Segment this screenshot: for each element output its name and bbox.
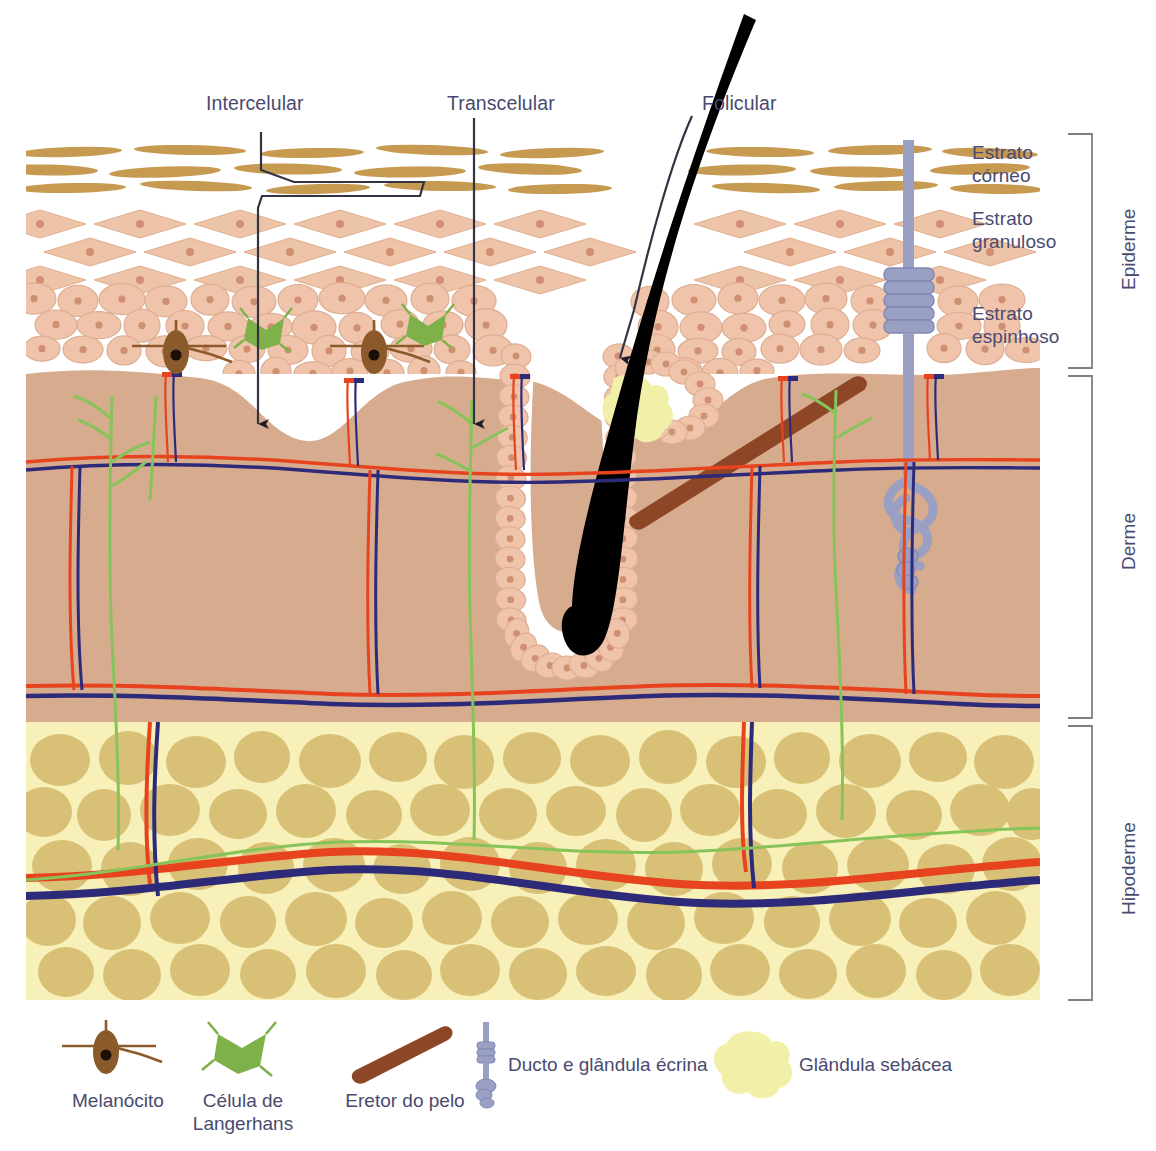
bracket-hipoderme: [1068, 726, 1092, 1000]
legend-label-arrector-pili: Eretor do pelo: [325, 1089, 485, 1112]
melanocyte-icon: [62, 1020, 162, 1074]
bracket-epiderme: [1068, 134, 1092, 368]
arrector-pili-icon: [352, 1026, 453, 1083]
sublayer-label-stratum-spinosum: Estrato espinhoso: [972, 302, 1060, 348]
legend-label-langerhans: Célula de Langerhans: [168, 1089, 318, 1135]
stratum-corneum-cells: [0, 143, 1042, 196]
bracket-label-hipoderme: Hipoderme: [1118, 822, 1140, 915]
route-label-follicular: Folicular: [702, 92, 777, 115]
stratum-granulosum-cells: [0, 210, 1036, 294]
legend-label-eccrine: Ducto e glândula écrina: [508, 1053, 788, 1076]
legend-label-sebaceous: Glândula sebácea: [799, 1053, 1079, 1076]
route-label-intercellular: Intercelular: [206, 92, 304, 115]
skin-anatomy-diagram: Intercelular Transcelular Folicular Estr…: [0, 0, 1156, 1151]
bracket-label-epiderme: Epiderme: [1118, 209, 1140, 290]
route-label-transcellular: Transcelular: [447, 92, 555, 115]
sublayer-label-stratum-granulosum: Estrato granuloso: [972, 207, 1056, 253]
sublayer-label-stratum-corneum: Estrato córneo: [972, 141, 1033, 187]
layer-brackets: [1068, 134, 1092, 1000]
bracket-derme: [1068, 376, 1092, 718]
bracket-label-derme: Derme: [1118, 513, 1140, 570]
langerhans-cell-icon: [202, 1022, 276, 1076]
